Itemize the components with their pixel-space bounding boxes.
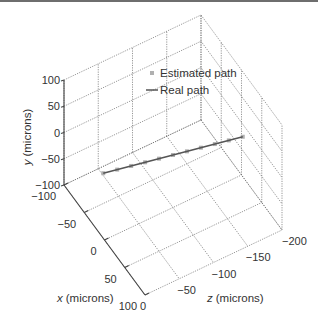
legend-marker-estimated — [150, 71, 154, 75]
y-tick-label: 0 — [54, 127, 60, 139]
x-tick-label: 0 — [90, 245, 96, 257]
grid-line — [98, 169, 179, 279]
x-axis-label: x(microns) — [56, 292, 114, 304]
data-series — [101, 135, 245, 176]
grid-line — [133, 153, 214, 263]
y-tick-label: 50 — [48, 100, 60, 112]
z-tick-label: −200 — [282, 235, 307, 247]
svg-text:y(microns): y(microns) — [21, 109, 33, 167]
z-axis-label: z(microns) — [206, 292, 264, 304]
y-axis-var: y — [21, 158, 33, 166]
x-tick-label: −100 — [31, 190, 56, 202]
grid-line — [201, 94, 282, 204]
z-tick-label: −50 — [177, 284, 196, 296]
z-tick-label: −150 — [246, 251, 271, 263]
axis-line — [64, 183, 68, 185]
x-tick-label: −50 — [58, 218, 77, 230]
y-tick-label: −50 — [41, 153, 60, 165]
legend-label-real: Real path — [160, 84, 209, 96]
z-axis-unit: (microns) — [216, 292, 264, 304]
real-path-line — [103, 137, 243, 174]
y-axis-unit: (microns) — [21, 109, 33, 157]
y-tick-label: 100 — [42, 74, 60, 86]
x-tick-label: 100 — [119, 300, 137, 312]
z-tick-label: −100 — [212, 268, 237, 280]
legend: Estimated path Real path — [146, 67, 237, 96]
axis-line — [125, 266, 129, 268]
x-axis-var: x — [56, 292, 64, 304]
grid-line — [125, 203, 262, 268]
axis-line — [61, 185, 64, 186]
x-axis-unit: (microns) — [66, 292, 114, 304]
grid-line — [201, 68, 282, 178]
axis-line — [84, 211, 88, 213]
legend-label-estimated: Estimated path — [160, 67, 237, 79]
3d-plot: −100−50050100−100−500501000−50−100−150−2… — [0, 0, 318, 326]
axis-line — [145, 293, 149, 295]
axes-lines — [61, 80, 149, 295]
x-tick-label: 50 — [105, 273, 117, 285]
z-tick-label: 0 — [140, 300, 146, 312]
axis-line — [105, 238, 109, 240]
tick-labels: −100−50050100−100−500501000−50−100−150−2… — [31, 74, 307, 312]
z-axis-var: z — [206, 292, 213, 304]
y-axis-label: y(microns) — [21, 109, 33, 167]
